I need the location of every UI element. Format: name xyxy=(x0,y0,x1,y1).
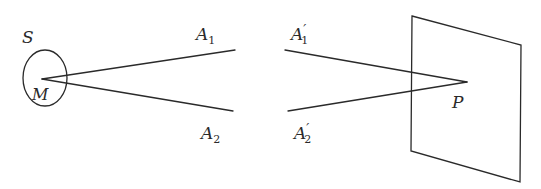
label-a2: A2 xyxy=(199,123,220,146)
label-s: S xyxy=(22,27,34,47)
label-a1: A1 xyxy=(194,24,215,47)
interference-diagram: S M A1 A2 A′1 A′2 P xyxy=(0,0,541,189)
label-a2-prime: A′2 xyxy=(292,121,311,146)
label-p: P xyxy=(451,92,464,112)
ray-m-a1 xyxy=(42,50,235,79)
screen-plane xyxy=(411,16,521,182)
label-a1-prime: A′1 xyxy=(289,22,308,47)
ray-m-a2 xyxy=(42,79,233,111)
ray-a2p-p xyxy=(288,82,467,111)
label-m: M xyxy=(31,85,49,104)
ray-a1p-p xyxy=(285,50,467,82)
